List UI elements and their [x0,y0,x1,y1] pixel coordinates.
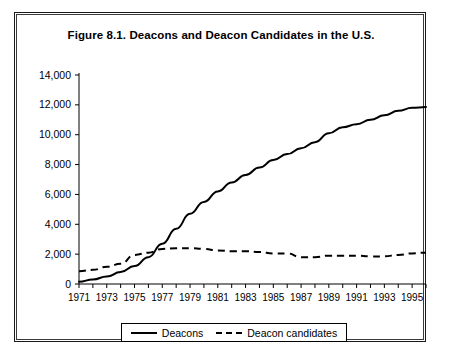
x-axis-label: 1977 [151,292,174,303]
y-axis-label: 14,000 [39,69,71,81]
legend-swatch-solid-icon [131,332,157,334]
y-axis-label: 8,000 [45,158,71,170]
legend-item-deacons: Deacons [131,327,203,339]
chart-svg: 02,0004,0006,0008,00010,00012,00014,0001… [15,13,427,343]
x-axis-label: 1987 [290,292,313,303]
x-axis-label: 1981 [207,292,230,303]
y-axis-label: 12,000 [39,98,71,110]
y-axis-label: 4,000 [45,218,71,230]
y-axis-label: 2,000 [45,248,71,260]
x-axis-label: 1975 [123,292,146,303]
chart-plot-area: 02,0004,0006,0008,00010,00012,00014,0001… [15,13,427,343]
legend-item-deacon-candidates: Deacon candidates [216,327,337,339]
x-axis-label: 1983 [234,292,257,303]
legend-label-deacon-candidates: Deacon candidates [247,327,337,339]
x-axis-label: 1971 [68,292,91,303]
x-axis-label: 1995 [401,292,424,303]
y-axis-label: 6,000 [45,188,71,200]
chart-legend: Deacons Deacon candidates [121,323,347,342]
x-axis-label: 1985 [262,292,285,303]
x-axis-label: 1993 [373,292,396,303]
x-axis-label: 1979 [179,292,202,303]
legend-swatch-dashed-icon [216,332,242,334]
y-axis-label: 10,000 [39,128,71,140]
x-axis-label: 1973 [96,292,119,303]
legend-label-deacons: Deacons [162,327,203,339]
x-axis-label: 1991 [345,292,368,303]
figure-frame: Figure 8.1. Deacons and Deacon Candidate… [14,12,426,342]
x-axis-label: 1989 [318,292,341,303]
y-axis-label: 0 [65,278,71,290]
